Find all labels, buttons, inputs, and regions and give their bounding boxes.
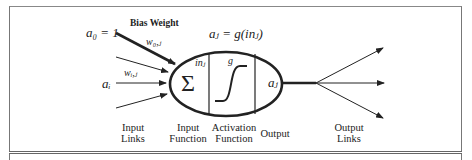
label-activation-function: Activation Function xyxy=(210,122,258,144)
output-activation-symbol: aⱼ xyxy=(268,75,278,91)
output-equation: aⱼ = g(inⱼ) xyxy=(209,26,263,42)
input-arrow-3 xyxy=(116,94,167,108)
label-input-function: Input Function xyxy=(168,122,208,144)
bias-weight-symbol: w₀,ⱼ xyxy=(146,36,161,47)
bias-weight-title: Bias Weight xyxy=(130,18,179,29)
label-input-links: Input Links xyxy=(113,122,153,144)
input-activation-symbol: aᵢ xyxy=(102,76,111,92)
input-weight-symbol: wᵢ,ⱼ xyxy=(124,67,137,78)
label-output: Output xyxy=(257,128,293,139)
label-output-links: Output Links xyxy=(329,122,369,144)
bias-input-label: a₀ = 1 xyxy=(86,25,119,41)
in-label: inⱼ xyxy=(195,57,205,68)
output-arrow-3 xyxy=(316,83,383,118)
sum-symbol: Σ xyxy=(181,70,195,97)
output-arrow-1 xyxy=(316,48,383,83)
g-label: g xyxy=(228,55,233,66)
